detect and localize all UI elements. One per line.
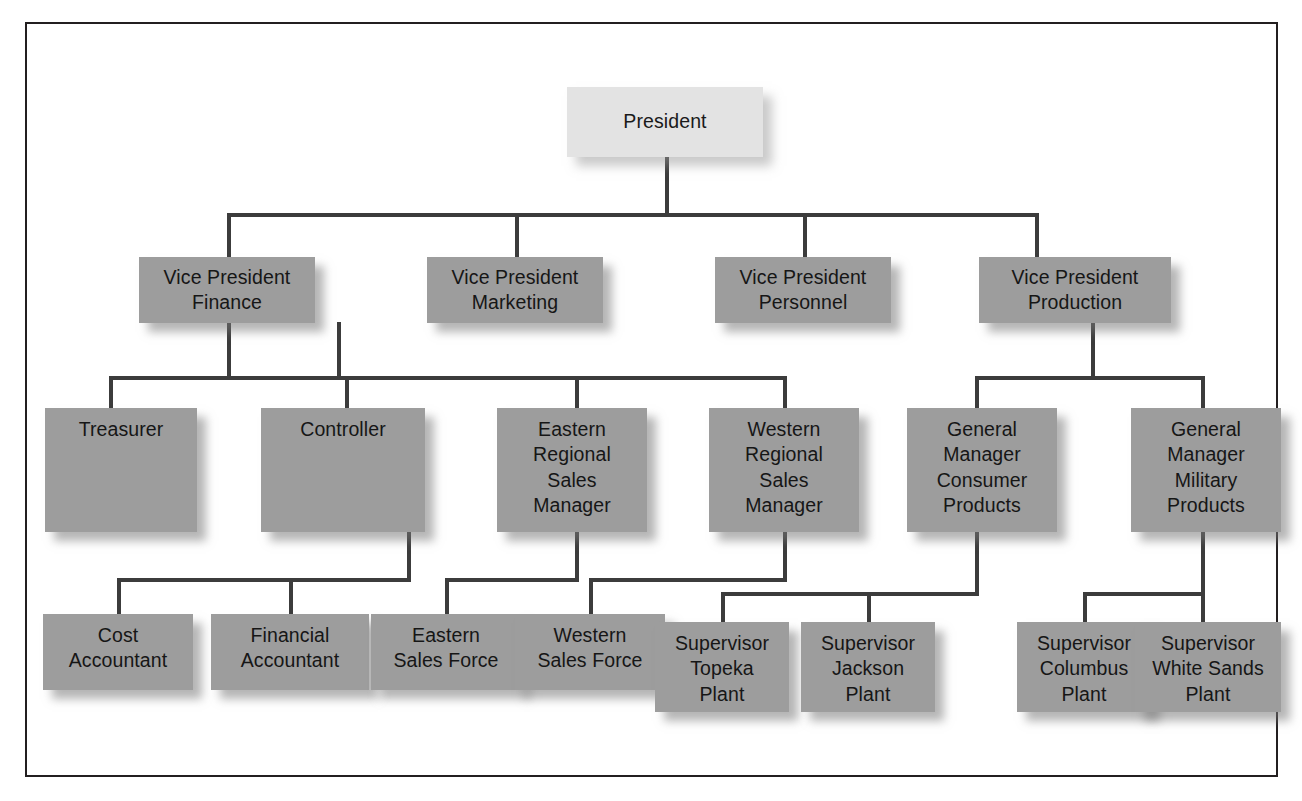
connector-vp-finance-bus	[109, 376, 349, 380]
connector-drop-supervisor-topeka	[721, 592, 725, 622]
node-controller[interactable]: Controller	[261, 408, 425, 532]
node-vice-president-production[interactable]: Vice President Production	[979, 257, 1171, 323]
connector-drop-supervisor-columbus	[1083, 592, 1087, 622]
node-eastern-sales-force[interactable]: Eastern Sales Force	[371, 614, 521, 690]
node-western-sales-force[interactable]: Western Sales Force	[515, 614, 665, 690]
connector-controller-bus	[117, 578, 411, 582]
node-financial-accountant[interactable]: Financial Accountant	[211, 614, 369, 690]
node-cost-accountant[interactable]: Cost Accountant	[43, 614, 193, 690]
connector-vp-production-bus	[975, 376, 1205, 380]
node-treasurer[interactable]: Treasurer	[45, 408, 197, 532]
node-eastern-regional-sales-manager[interactable]: Eastern Regional Sales Manager	[497, 408, 647, 532]
org-chart-canvas: President Vice President Finance Vice Pr…	[0, 0, 1302, 801]
connector-drop-vp-marketing	[515, 213, 519, 257]
node-vice-president-marketing[interactable]: Vice President Marketing	[427, 257, 603, 323]
chart-frame-border: President Vice President Finance Vice Pr…	[25, 22, 1278, 777]
connector-vp-marketing-bus	[337, 376, 787, 380]
node-supervisor-columbus-plant[interactable]: Supervisor Columbus Plant	[1017, 622, 1151, 712]
connector-drop-cost-accountant	[117, 578, 121, 614]
connector-gm-consumer-stem	[975, 532, 979, 594]
connector-drop-eastern-manager	[575, 376, 579, 408]
node-supervisor-jackson-plant[interactable]: Supervisor Jackson Plant	[801, 622, 935, 712]
node-supervisor-white-sands-plant[interactable]: Supervisor White Sands Plant	[1135, 622, 1281, 712]
connector-drop-treasurer	[109, 376, 113, 408]
connector-drop-western-sales-force	[589, 578, 593, 614]
node-supervisor-topeka-plant[interactable]: Supervisor Topeka Plant	[655, 622, 789, 712]
node-vice-president-personnel[interactable]: Vice President Personnel	[715, 257, 891, 323]
node-general-manager-military-products[interactable]: General Manager Military Products	[1131, 408, 1281, 532]
connector-western-manager-bus	[589, 578, 787, 582]
node-general-manager-consumer-products[interactable]: General Manager Consumer Products	[907, 408, 1057, 532]
connector-drop-vp-finance	[227, 213, 231, 257]
connector-drop-financial-accountant	[289, 578, 293, 614]
node-western-regional-sales-manager[interactable]: Western Regional Sales Manager	[709, 408, 859, 532]
connector-drop-supervisor-jackson	[867, 592, 871, 622]
connector-eastern-manager-bus	[445, 578, 579, 582]
connector-controller-stem	[407, 532, 411, 580]
connector-gm-military-bus	[1083, 592, 1205, 596]
connector-drop-vp-personnel	[803, 213, 807, 257]
node-vice-president-finance[interactable]: Vice President Finance	[139, 257, 315, 323]
connector-vp-marketing-stem	[337, 322, 341, 378]
connector-vp-production-stem	[1091, 322, 1095, 378]
connector-gm-consumer-bus	[721, 592, 979, 596]
connector-drop-vp-production	[1035, 213, 1039, 257]
connector-gm-military-stem	[1201, 532, 1205, 594]
node-president[interactable]: President	[567, 87, 763, 157]
connector-drop-western-manager	[783, 376, 787, 408]
connector-president-bus	[227, 213, 1039, 217]
connector-president-stem	[665, 157, 669, 215]
connector-drop-gm-military	[1201, 376, 1205, 408]
connector-drop-controller	[345, 376, 349, 408]
connector-drop-supervisor-white-sands	[1201, 592, 1205, 622]
connector-western-manager-stem	[783, 532, 787, 580]
connector-vp-finance-stem	[227, 322, 231, 378]
connector-drop-eastern-sales-force	[445, 578, 449, 614]
connector-drop-gm-consumer	[975, 376, 979, 408]
connector-eastern-manager-stem	[575, 532, 579, 580]
